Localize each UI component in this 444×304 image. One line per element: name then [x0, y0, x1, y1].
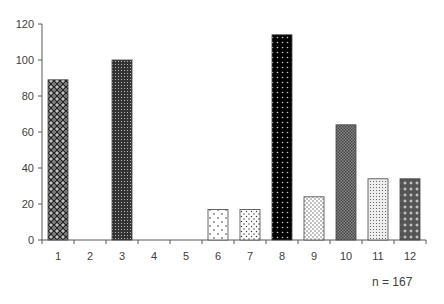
x-tick-label: 12 — [404, 250, 416, 262]
bar-3 — [112, 60, 132, 240]
x-tick-label: 5 — [183, 250, 189, 262]
y-tick-label: 60 — [22, 126, 34, 138]
x-tick-label: 8 — [279, 250, 285, 262]
y-tick-label: 120 — [16, 18, 34, 30]
x-tick-label: 1 — [55, 250, 61, 262]
bar-7 — [240, 209, 260, 240]
y-tick-label: 80 — [22, 90, 34, 102]
bar-12 — [400, 179, 420, 240]
y-tick-label: 100 — [16, 54, 34, 66]
x-tick-label: 11 — [372, 250, 383, 262]
bar-8 — [272, 35, 292, 240]
x-tick-label: 9 — [311, 250, 317, 262]
bar-1 — [48, 80, 68, 240]
bar-6 — [208, 209, 228, 240]
y-tick-label: 20 — [22, 198, 34, 210]
bar-11 — [368, 179, 388, 240]
x-tick-label: 4 — [151, 250, 157, 262]
bar-chart: 020406080100120123456789101112 — [0, 0, 444, 304]
bar-10 — [336, 125, 356, 240]
bar-9 — [304, 197, 324, 240]
x-tick-label: 7 — [247, 250, 253, 262]
y-tick-label: 0 — [28, 234, 34, 246]
sample-size-annotation: n = 167 — [372, 275, 412, 289]
x-tick-label: 3 — [119, 250, 125, 262]
x-tick-label: 2 — [87, 250, 93, 262]
bars — [48, 35, 420, 240]
y-tick-label: 40 — [22, 162, 34, 174]
x-tick-label: 6 — [215, 250, 221, 262]
x-tick-label: 10 — [340, 250, 352, 262]
